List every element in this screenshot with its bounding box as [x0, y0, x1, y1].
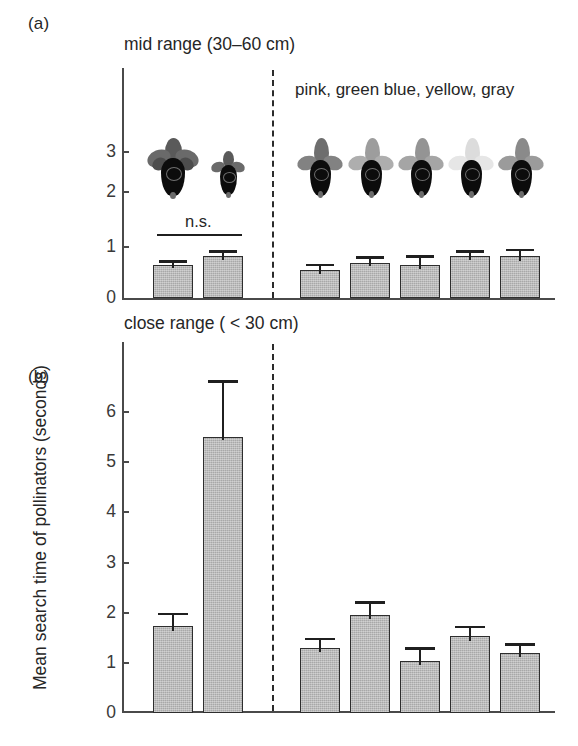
panel-b-ticklabel-5: 5	[94, 453, 116, 471]
panel-b-errorcap-small-natural	[208, 380, 238, 383]
panel-b-ticklabel-3: 3	[94, 554, 116, 572]
panel-a-bar-pink	[300, 270, 340, 298]
panel-b-tick-1	[122, 662, 129, 664]
panel-a-errorcap-yellow	[456, 250, 484, 253]
panel-a-range-title: mid range (30–60 cm)	[124, 34, 295, 55]
panel-a-errorcap-blue	[406, 255, 434, 258]
panel-a-errorcap-pink	[306, 264, 334, 267]
panel-a-tick-3	[122, 151, 129, 153]
panel-b-ticklabel-6: 6	[94, 403, 116, 421]
panel-a-bar-gray	[500, 256, 540, 298]
panel-b-errorstem-small-natural	[222, 380, 224, 440]
panel-b-errorcap-gray	[505, 643, 535, 646]
panel-b-tick-6	[122, 411, 129, 413]
panel-a-ticklabel-2: 2	[94, 183, 116, 201]
orchid-flower-large-icon	[148, 140, 198, 202]
panel-a-bar-blue	[400, 265, 440, 299]
panel-a-bar-green	[350, 263, 390, 299]
orchid-flower-pink-icon	[298, 140, 342, 200]
panel-b-errorstem-green	[369, 601, 371, 619]
panel-b-tick-2	[122, 612, 129, 614]
panel-a-errorcap-large-natural	[159, 260, 187, 263]
panel-b-range-title: close range ( < 30 cm)	[124, 313, 299, 334]
panel-b-errorcap-yellow	[455, 626, 485, 629]
panel-a-ns-label: n.s.	[185, 212, 212, 231]
panel-b-errorcap-blue	[405, 647, 435, 650]
panel-a-y-axis	[122, 68, 124, 300]
panel-a-bar-large-natural	[153, 265, 193, 299]
panel-a-ticklabel-1: 1	[94, 238, 116, 256]
panel-b-bar-blue	[400, 661, 440, 713]
panel-b-ticklabel-0: 0	[94, 704, 116, 722]
panel-b-ticklabel-2: 2	[94, 604, 116, 622]
orchid-flower-blue-icon	[399, 140, 443, 200]
panel-a-x-axis	[122, 298, 555, 300]
orchid-flower-gray-icon	[499, 140, 543, 200]
panel-a-errorcap-green	[356, 256, 384, 259]
panel-b-errorstem-blue	[419, 647, 421, 665]
orchid-flower-green-icon	[349, 140, 393, 200]
panel-b-tick-4	[122, 511, 129, 513]
y-axis-label: Mean search time of pollinators (seconds…	[30, 365, 51, 690]
panel-a-tick-2	[122, 191, 129, 193]
panel-b-bar-yellow	[450, 636, 490, 713]
panel-a-letter: (a)	[28, 14, 49, 34]
panel-b-y-axis	[122, 342, 124, 713]
panel-a-bar-small-natural	[203, 256, 243, 298]
panel-b-tick-3	[122, 562, 129, 564]
panel-a-ns-bar	[157, 234, 242, 236]
figure-root: Mean search time of pollinators (seconds…	[0, 0, 578, 746]
panel-a-ticklabel-3: 3	[94, 143, 116, 161]
panel-b-errorstem-large-natural	[172, 613, 174, 631]
panel-b-letter: (b)	[28, 367, 49, 387]
panel-a-legend: pink, green blue, yellow, gray	[295, 80, 514, 100]
panel-b-bar-small-natural	[203, 437, 243, 713]
orchid-flower-yellow-icon	[449, 140, 493, 200]
panel-b-group-divider	[272, 344, 274, 711]
orchid-flower-small-icon	[211, 152, 245, 200]
panel-b-tick-5	[122, 461, 129, 463]
panel-b-errorcap-large-natural	[158, 613, 188, 616]
panel-b-errorcap-pink	[305, 638, 335, 641]
panel-a-tick-1	[122, 246, 129, 248]
panel-a-group-divider	[272, 70, 274, 298]
panel-b-bar-green	[350, 615, 390, 713]
panel-b-bar-pink	[300, 648, 340, 713]
panel-b-ticklabel-1: 1	[94, 654, 116, 672]
panel-a-errorcap-gray	[506, 249, 534, 252]
panel-a-errorcap-small-natural	[209, 250, 237, 253]
panel-a-ticklabel-0: 0	[94, 289, 116, 307]
panel-b-errorcap-green	[355, 601, 385, 604]
panel-b-bar-large-natural	[153, 626, 193, 713]
panel-a-bar-yellow	[450, 256, 490, 298]
panel-b-ticklabel-4: 4	[94, 503, 116, 521]
panel-b-bar-gray	[500, 653, 540, 713]
